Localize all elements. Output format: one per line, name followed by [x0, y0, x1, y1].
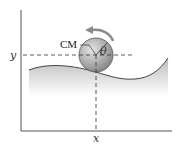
- rolling-ball-diagram: CM θ y x: [0, 0, 184, 147]
- cm-label: CM: [60, 38, 77, 50]
- rotation-arrowhead-icon: [85, 26, 93, 34]
- y-axis-label: y: [9, 49, 17, 62]
- theta-label: θ: [100, 45, 107, 58]
- x-axis-label: x: [93, 132, 100, 145]
